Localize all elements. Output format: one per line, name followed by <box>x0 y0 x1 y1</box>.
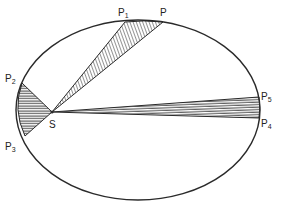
sector-p5-p4 <box>52 97 260 118</box>
sector-p2-p3 <box>18 83 52 136</box>
label-p4: P4 <box>261 118 272 130</box>
sector-p1-p <box>52 21 163 112</box>
label-p5: P5 <box>261 91 272 103</box>
label-p: P <box>160 7 167 18</box>
kepler-ellipse-diagram: P P1 P2 P3 P4 P5 S <box>0 0 284 208</box>
label-p1: P1 <box>118 7 129 19</box>
focus-point-s <box>50 110 53 113</box>
label-p2: P2 <box>5 73 16 85</box>
label-p3: P3 <box>5 141 16 153</box>
label-s: S <box>49 119 56 130</box>
